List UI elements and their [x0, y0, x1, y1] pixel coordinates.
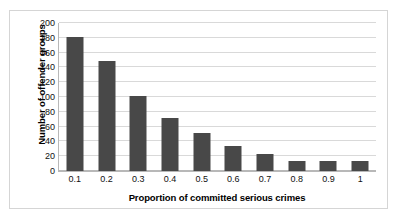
- x-tick-label: 0.8: [290, 174, 303, 184]
- x-tick-slot: 1: [344, 23, 376, 171]
- y-tick-label: 0: [50, 166, 55, 176]
- x-tick-slot: 0.3: [122, 23, 154, 171]
- x-tick-label: 1: [358, 174, 363, 184]
- x-tick-slot: 0.2: [91, 23, 123, 171]
- y-tick-label: 140: [40, 62, 55, 72]
- y-tick-label: 60: [45, 122, 55, 132]
- x-tick-label: 0.5: [195, 174, 208, 184]
- x-tick-slot: 0.5: [186, 23, 218, 171]
- x-tick-label: 0.4: [164, 174, 177, 184]
- x-tick-slot: 0.7: [249, 23, 281, 171]
- x-tick-slot: 0.6: [218, 23, 250, 171]
- x-tick-slot: 0.4: [154, 23, 186, 171]
- x-tick-label: 0.6: [227, 174, 240, 184]
- x-tick-label: 0.1: [69, 174, 82, 184]
- y-tick-label: 80: [45, 107, 55, 117]
- x-axis-title: Proportion of committed serious crimes: [58, 192, 376, 203]
- x-tick-label: 0.3: [132, 174, 145, 184]
- y-tick-label: 200: [40, 18, 55, 28]
- y-tick-label: 180: [40, 33, 55, 43]
- chart-container: Number of offender groups 20018016014012…: [9, 10, 388, 209]
- x-tick-slot: 0.9: [313, 23, 345, 171]
- y-tick-label: 40: [45, 136, 55, 146]
- x-tick-label: 0.7: [259, 174, 272, 184]
- y-tick-label: 120: [40, 77, 55, 87]
- x-tick-label: 0.2: [100, 174, 113, 184]
- x-tick-label: 0.9: [322, 174, 335, 184]
- y-tick-label: 20: [45, 151, 55, 161]
- y-tick-label: 160: [40, 48, 55, 58]
- x-tick-slot: 0.1: [59, 23, 91, 171]
- y-tick-label: 100: [40, 92, 55, 102]
- x-tick-slot: 0.8: [281, 23, 313, 171]
- plot-area: 200180160140120100806040200 0.10.20.30.4…: [58, 23, 376, 172]
